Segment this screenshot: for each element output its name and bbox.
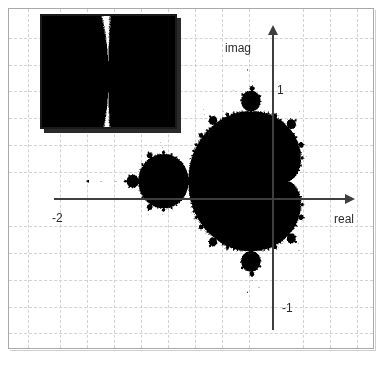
tick-label-imag-one: 1 <box>277 84 284 96</box>
real-axis-label: real <box>334 213 354 225</box>
imag-axis-label: imag <box>225 42 251 54</box>
tick-label-real-negative-two: -2 <box>52 212 63 224</box>
imag-axis-line <box>272 34 274 330</box>
real-axis-line <box>54 198 346 200</box>
imag-axis-arrow-icon <box>268 25 278 35</box>
tick-label-imag-negative-one: -1 <box>282 302 293 314</box>
real-axis-arrow-icon <box>345 194 355 204</box>
inset-detail-panel <box>40 14 177 129</box>
mandelbrot-detail-render <box>42 16 175 127</box>
mandelbrot-figure: imag real 1 -1 -2 <box>0 0 382 365</box>
